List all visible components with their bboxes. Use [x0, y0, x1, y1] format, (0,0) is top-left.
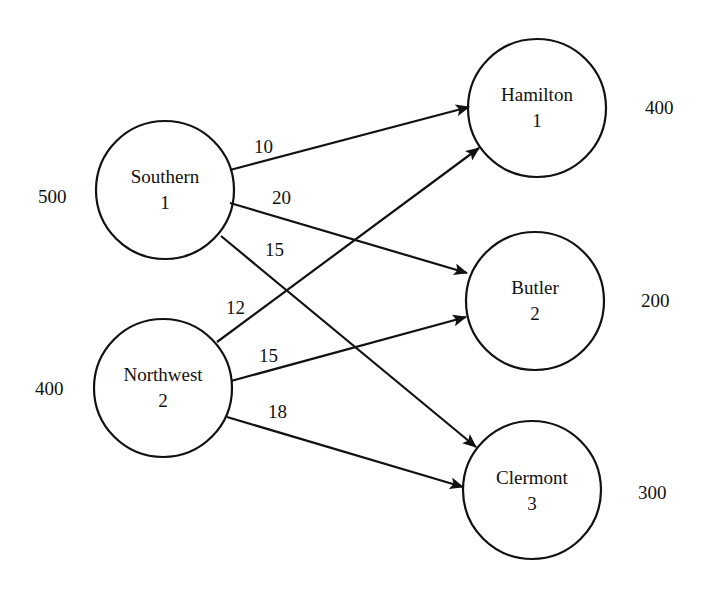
cost-northwest-hamilton: 12 [226, 297, 245, 319]
cost-northwest-butler: 15 [259, 345, 278, 367]
supply-northwest: 400 [35, 378, 64, 400]
cost-southern-hamilton: 10 [254, 136, 273, 158]
node-name: Southern [95, 164, 235, 190]
node-name: Hamilton [467, 82, 607, 108]
cost-southern-clermont: 15 [265, 239, 284, 261]
node-northwest-label: Northwest 2 [93, 362, 233, 414]
demand-butler: 200 [641, 290, 670, 312]
network-diagram [0, 0, 717, 595]
edge-southern-clermont [221, 236, 476, 447]
node-name: Northwest [93, 362, 233, 388]
cost-southern-butler: 20 [272, 187, 291, 209]
supply-southern: 500 [38, 186, 67, 208]
node-southern-label: Southern 1 [95, 164, 235, 216]
node-name: Butler [465, 275, 605, 301]
edge-northwest-hamilton [217, 148, 479, 342]
demand-hamilton: 400 [645, 97, 674, 119]
cost-northwest-clermont: 18 [268, 401, 287, 423]
node-clermont-label: Clermont 3 [462, 465, 602, 517]
node-index: 3 [462, 491, 602, 517]
node-name: Clermont [462, 465, 602, 491]
edge-southern-butler [230, 203, 467, 273]
node-index: 2 [93, 388, 233, 414]
node-index: 2 [465, 301, 605, 327]
edge-northwest-clermont [227, 417, 463, 487]
node-index: 1 [95, 190, 235, 216]
node-hamilton-label: Hamilton 1 [467, 82, 607, 134]
demand-clermont: 300 [638, 482, 667, 504]
node-butler-label: Butler 2 [465, 275, 605, 327]
node-index: 1 [467, 108, 607, 134]
